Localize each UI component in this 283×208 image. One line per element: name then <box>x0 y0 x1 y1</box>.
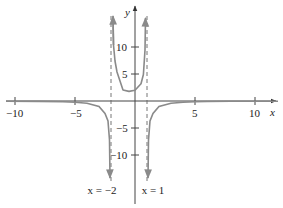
x-tick-label: −10 <box>6 107 24 119</box>
x-tick-label: 5 <box>192 107 198 119</box>
y-axis-label: y <box>124 6 130 18</box>
y-tick-label: −5 <box>116 122 128 134</box>
x-axis-label: x <box>269 106 275 118</box>
curve-middle-branch-left-tip <box>113 16 114 45</box>
asymptote-left-label: x = −2 <box>88 184 117 196</box>
asymptote-right-label: x = 1 <box>142 184 165 196</box>
y-tick-label: 10 <box>116 41 128 53</box>
x-tick-label: −5 <box>70 107 82 119</box>
x-tick-label: 10 <box>249 107 261 119</box>
curve-middle-branch <box>113 18 146 91</box>
y-tick-label: −10 <box>110 149 128 161</box>
function-graph: −10 −5 5 10 x 10 5 −5 −10 y x = −2 x = 1 <box>0 0 283 208</box>
y-tick-label: 5 <box>122 68 128 80</box>
